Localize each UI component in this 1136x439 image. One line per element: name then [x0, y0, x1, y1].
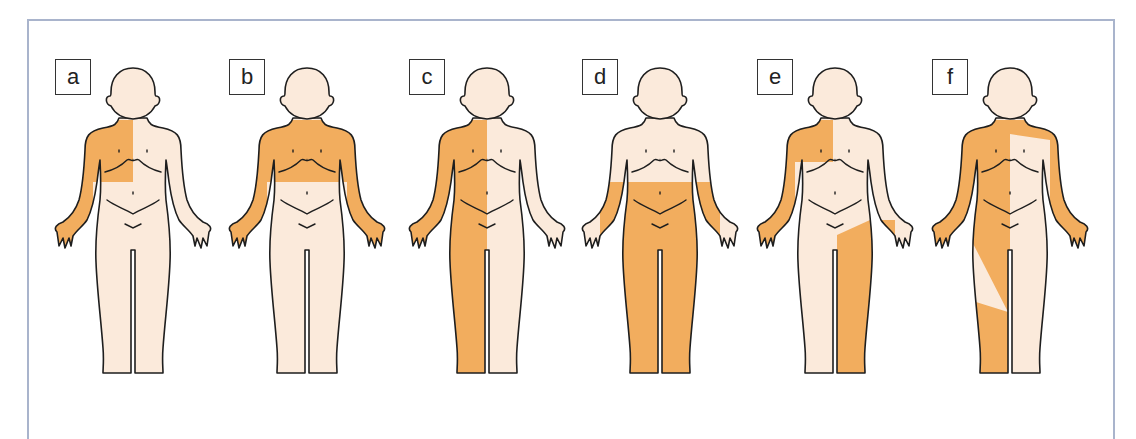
- panel-f: f: [0, 0, 176, 419]
- head: [983, 68, 1036, 119]
